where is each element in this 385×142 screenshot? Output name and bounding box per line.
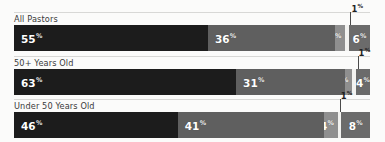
segment-value-label: 2%	[345, 76, 348, 89]
bar-segment-2: 36%	[208, 25, 335, 51]
row-divider	[14, 12, 370, 13]
callout-value-label: 1%	[359, 45, 371, 58]
bar-segment-1: 55%	[14, 25, 208, 51]
percent-sign: %	[36, 119, 42, 127]
callout-value-label: 1%	[351, 1, 363, 14]
bar-track: 55%36%3%6%	[14, 25, 370, 51]
percent-sign: %	[358, 3, 364, 9]
percent-sign: %	[230, 32, 236, 40]
bar-segment-1: 63%	[14, 69, 236, 95]
segment-value-label: 3%	[335, 32, 342, 45]
percent-sign: %	[360, 32, 366, 40]
callout-leader-line: 1%	[358, 56, 359, 69]
row-divider	[14, 99, 370, 100]
bar-row: Under 50 Years Old46%41%4%8%1%	[0, 99, 385, 142]
callout-value-label: 1%	[341, 88, 353, 101]
percent-sign: %	[364, 76, 370, 84]
percent-sign: %	[328, 119, 334, 127]
segment-value-label: 4%	[356, 76, 370, 89]
bar-track: 46%41%4%8%	[14, 112, 370, 138]
percent-sign: %	[335, 32, 341, 40]
row-label: Under 50 Years Old	[14, 101, 95, 111]
percent-sign: %	[36, 76, 42, 84]
bar-segment-2: 41%	[178, 112, 324, 138]
percent-sign: %	[36, 32, 42, 40]
segment-value-label: 41%	[185, 119, 206, 132]
percent-sign: %	[345, 76, 348, 84]
percent-sign: %	[200, 119, 206, 127]
callout-leader-line: 1%	[350, 12, 351, 25]
percent-sign: %	[347, 90, 353, 96]
segment-value-label: 63%	[21, 76, 42, 89]
row-label: All Pastors	[14, 14, 58, 24]
callout-leader-line: 1%	[340, 99, 341, 112]
row-divider	[14, 56, 370, 57]
segment-value-label: 4%	[324, 119, 334, 132]
percent-sign: %	[258, 76, 264, 84]
segment-value-label: 31%	[243, 76, 264, 89]
bar-segment-3: 4%	[324, 112, 338, 138]
segment-value-label: 8%	[349, 119, 363, 132]
segment-value-label: 46%	[21, 119, 42, 132]
bar-segment-5: 4%	[356, 69, 370, 95]
bar-segment-2: 31%	[236, 69, 345, 95]
bar-segment-5: 8%	[341, 112, 369, 138]
stacked-bar-chart: All Pastors55%36%3%6%1%50+ Years Old63%3…	[0, 0, 385, 142]
bar-segment-1: 46%	[14, 112, 178, 138]
segment-value-label: 55%	[21, 32, 42, 45]
bar-row: All Pastors55%36%3%6%1%	[0, 12, 385, 55]
percent-sign: %	[365, 47, 371, 53]
segment-value-label: 6%	[352, 32, 366, 45]
bar-row: 50+ Years Old63%31%2%4%1%	[0, 56, 385, 99]
percent-sign: %	[356, 119, 362, 127]
row-label: 50+ Years Old	[14, 58, 74, 68]
bar-track: 63%31%2%4%	[14, 69, 370, 95]
bar-segment-3: 3%	[335, 25, 346, 51]
segment-value-label: 36%	[215, 32, 236, 45]
